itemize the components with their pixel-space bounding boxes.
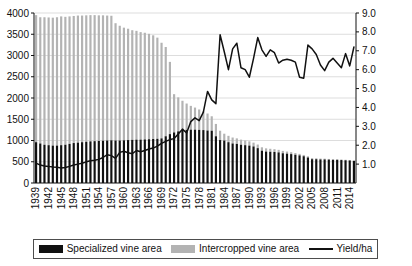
legend-item-specialized: Specialized vine area bbox=[39, 244, 162, 254]
y2-tick-label: 1.0 bbox=[362, 159, 376, 170]
y-axis-tick-labels: 05001000150020002500300035004000 bbox=[7, 8, 30, 189]
y2-tick-label: 9.0 bbox=[362, 8, 376, 19]
chart-plot: 05001000150020002500300035004000 1.02.03… bbox=[0, 0, 412, 266]
x-tick-label: 1939 bbox=[30, 187, 41, 210]
x-tick-label: 1984 bbox=[219, 187, 230, 210]
x-tick-label: 1969 bbox=[156, 187, 167, 210]
x-tick-label: 1987 bbox=[231, 187, 242, 210]
x-tick-label: 1945 bbox=[56, 187, 67, 210]
y-tick-label: 1500 bbox=[7, 114, 30, 125]
y2-tick-label: 8.0 bbox=[362, 26, 376, 37]
y2-tick-label: 6.0 bbox=[362, 64, 376, 75]
legend-item-intercropped: Intercropped vine area bbox=[171, 244, 299, 254]
y2-tick-label: 5.0 bbox=[362, 83, 376, 94]
x-tick-label: 1948 bbox=[68, 187, 79, 210]
x-tick-label: 1972 bbox=[168, 187, 179, 210]
x-tick-label: 1978 bbox=[194, 187, 205, 210]
x-axis-tick-labels: 1939194219451948195119541957196019631966… bbox=[30, 187, 355, 210]
y-tick-label: 3500 bbox=[7, 29, 30, 40]
x-tick-label: 1999 bbox=[281, 187, 292, 210]
legend-item-yield: Yield/ha bbox=[309, 244, 373, 254]
chart-container: 05001000150020002500300035004000 1.02.03… bbox=[0, 0, 412, 266]
x-tick-label: 1975 bbox=[181, 187, 192, 210]
x-tick-label: 2014 bbox=[344, 187, 355, 210]
x-tick-label: 2002 bbox=[294, 187, 305, 210]
x-tick-label: 1990 bbox=[244, 187, 255, 210]
y2-tick-label: 4.0 bbox=[362, 102, 376, 113]
legend-swatch-intercropped bbox=[171, 245, 195, 253]
legend-label-specialized: Specialized vine area bbox=[67, 244, 162, 254]
x-tick-label: 2011 bbox=[332, 187, 343, 209]
x-tick-label: 1960 bbox=[118, 187, 129, 210]
x-tick-label: 1996 bbox=[269, 187, 280, 210]
y2-tick-label: 3.0 bbox=[362, 121, 376, 132]
x-tick-label: 2005 bbox=[306, 187, 317, 210]
legend-swatch-specialized bbox=[39, 245, 63, 253]
y-tick-label: 3000 bbox=[7, 50, 30, 61]
y-tick-label: 4000 bbox=[7, 8, 30, 19]
x-tick-label: 1981 bbox=[206, 187, 217, 210]
x-tick-label: 1951 bbox=[81, 187, 92, 210]
x-tick-label: 1966 bbox=[143, 187, 154, 210]
y2-tick-label: 2.0 bbox=[362, 140, 376, 151]
legend-label-yield: Yield/ha bbox=[337, 244, 373, 254]
y-tick-label: 1000 bbox=[7, 135, 30, 146]
y2-axis-tick-labels: 1.02.03.04.05.06.07.08.09.0 bbox=[362, 8, 376, 170]
bar-series-layer bbox=[35, 15, 355, 183]
y-tick-label: 2500 bbox=[7, 71, 30, 82]
legend-line-yield bbox=[309, 248, 333, 250]
y2-tick-label: 7.0 bbox=[362, 45, 376, 56]
x-tick-label: 1993 bbox=[256, 187, 267, 210]
y-tick-label: 500 bbox=[12, 156, 29, 167]
x-tick-label: 1942 bbox=[43, 187, 54, 210]
x-tick-label: 1957 bbox=[106, 187, 117, 210]
legend-label-intercropped: Intercropped vine area bbox=[199, 244, 299, 254]
x-tick-label: 1963 bbox=[131, 187, 142, 210]
x-tick-label: 1954 bbox=[93, 187, 104, 210]
x-tick-label: 2008 bbox=[319, 187, 330, 210]
y-tick-label: 2000 bbox=[7, 93, 30, 104]
chart-legend: Specialized vine area Intercropped vine … bbox=[33, 239, 378, 259]
y-tick-label: 0 bbox=[23, 178, 29, 189]
